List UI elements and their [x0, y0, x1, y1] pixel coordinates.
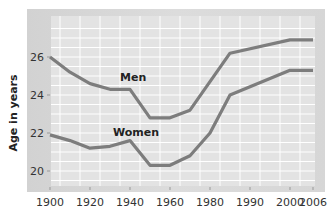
- women-series-label: Women: [113, 126, 159, 139]
- men-series-label: Men: [120, 71, 146, 84]
- y-tick-label: 20: [30, 165, 44, 178]
- x-tick-label: 1980: [196, 196, 224, 209]
- x-tick-label: 1920: [76, 196, 104, 209]
- x-tick-label: 1990: [236, 196, 264, 209]
- y-axis-title: Age in years: [7, 74, 20, 152]
- y-tick-label: 22: [30, 127, 44, 140]
- x-tick-label: 1900: [36, 196, 64, 209]
- y-tick-label: 24: [30, 89, 44, 102]
- y-tick-label: 26: [30, 51, 44, 64]
- x-tick-label: 1960: [156, 196, 184, 209]
- x-tick-label: 2006: [299, 196, 327, 209]
- x-tick-label: 1940: [116, 196, 144, 209]
- chart: 26242220 1900192019401960198019902000200…: [0, 0, 334, 213]
